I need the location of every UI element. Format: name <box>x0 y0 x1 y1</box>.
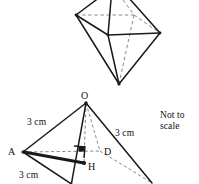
edge-right-bottom <box>119 33 160 84</box>
edge-top-front <box>108 0 112 35</box>
vertex-dot-H <box>82 161 86 165</box>
label-edge-OC-length: 3 cm <box>115 128 134 139</box>
not-to-scale-note-line2: scale <box>160 121 180 133</box>
edge-A-H <box>24 152 84 163</box>
label-vertex-D: D <box>104 146 111 157</box>
edge-left-bottom <box>76 15 119 84</box>
edge-front-bottom <box>108 35 119 84</box>
edge-top-back <box>116 0 134 15</box>
vertex-dot-left <box>75 14 78 17</box>
segment-A-H-emphasis <box>24 152 84 163</box>
edge-O-C <box>86 103 152 183</box>
edge-A-D <box>23 151 100 152</box>
octahedron-solid-edges <box>76 0 160 84</box>
vertex-dot-O <box>84 101 87 104</box>
label-vertex-O: O <box>81 90 88 101</box>
label-edge-OA-length: 3 cm <box>27 117 46 128</box>
edge-O-B <box>71 103 86 184</box>
right-angle-fill <box>79 146 85 151</box>
vertex-dot-A <box>21 150 24 153</box>
vertex-dot-right <box>159 32 162 35</box>
vertex-dot-bottom <box>117 82 120 85</box>
label-edge-AB-length: 3 cm <box>19 170 38 181</box>
label-vertex-A: A <box>8 146 15 157</box>
not-to-scale-note-line1: Not to <box>160 110 185 122</box>
pyramid-group <box>21 101 152 184</box>
edge-front-right <box>108 33 160 35</box>
octahedron-vertex-dots <box>75 14 162 86</box>
edge-top-right <box>120 0 160 33</box>
edge-O-D <box>86 103 100 151</box>
edge-top-left <box>76 0 112 15</box>
figure-canvas <box>0 0 199 184</box>
label-vertex-H: H <box>88 161 95 172</box>
pyramid-vertex-dots <box>21 101 87 165</box>
geometry-figure: O A D H 3 cm 3 cm 3 cm Not to scale <box>0 0 199 184</box>
vertex-dot-front <box>107 34 110 37</box>
octahedron-group <box>75 0 162 86</box>
octahedron-dashed-edges <box>76 0 160 84</box>
edge-left-front <box>76 15 108 35</box>
